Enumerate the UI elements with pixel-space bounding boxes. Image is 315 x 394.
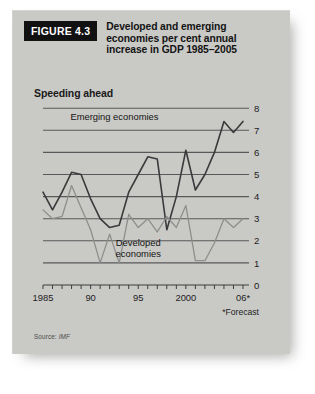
source-note: Source: IMF xyxy=(34,333,70,340)
y-tick-label: 1 xyxy=(254,258,259,269)
x-tick-label: 06* xyxy=(236,292,250,303)
x-tick-label: 1985 xyxy=(33,292,54,303)
y-tick-label: 4 xyxy=(254,191,260,202)
chart-plot-area: 012345678 19859095200006* Emerging econo… xyxy=(13,11,291,355)
line-chart-svg: 012345678 19859095200006* Emerging econo… xyxy=(13,11,291,355)
annotation-developed: Developed xyxy=(116,237,161,248)
y-tick-label: 3 xyxy=(254,213,259,224)
y-tick-label: 2 xyxy=(254,235,259,246)
y-tick-label: 5 xyxy=(254,169,259,180)
source-label: Source: xyxy=(34,333,57,340)
y-tick-label: 7 xyxy=(254,125,259,136)
y-axis-tick-labels: 012345678 xyxy=(254,103,260,291)
x-tick-label: 95 xyxy=(133,292,143,303)
source-value: IMF xyxy=(59,333,70,340)
y-tick-label: 0 xyxy=(254,280,259,291)
figure-panel: FIGURE 4.3 Developed and emerging econom… xyxy=(12,10,290,354)
x-tick-label: 2000 xyxy=(175,292,196,303)
x-axis-group xyxy=(43,285,249,289)
y-tick-label: 6 xyxy=(254,147,259,158)
annotation-emerging: Emerging economies xyxy=(70,111,158,122)
x-tick-label: 90 xyxy=(85,292,95,303)
x-axis-tick-labels: 19859095200006* xyxy=(33,292,251,303)
series-line-emerging-economies xyxy=(43,121,243,229)
footnote-forecast: *Forecast xyxy=(222,307,259,317)
annotation-developed: economies xyxy=(116,248,162,259)
y-tick-label: 8 xyxy=(254,103,259,114)
